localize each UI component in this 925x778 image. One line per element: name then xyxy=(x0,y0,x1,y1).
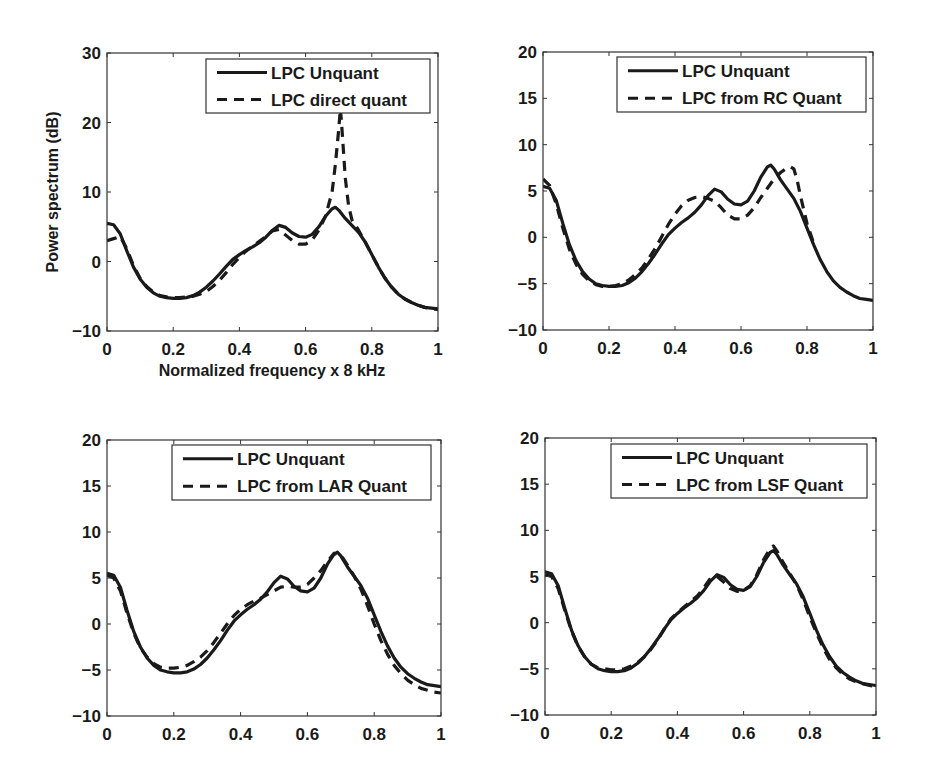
figure-background xyxy=(0,0,925,778)
legend-label: LPC Unquant xyxy=(676,449,784,468)
legend-label: LPC Unquant xyxy=(271,64,379,83)
legend: LPC UnquantLPC from RC Quant xyxy=(617,57,866,112)
x-tick-label: 0 xyxy=(102,340,111,359)
figure: 00.20.40.60.81−100102030LPC UnquantLPC d… xyxy=(0,0,925,778)
legend-label: LPC Unquant xyxy=(237,450,345,469)
y-tick-label: 20 xyxy=(82,114,101,133)
y-tick-label: 0 xyxy=(92,253,101,272)
y-tick-label: 5 xyxy=(530,568,539,587)
x-tick-label: 0.2 xyxy=(597,339,621,358)
x-tick-label: 0.8 xyxy=(795,339,819,358)
x-tick-label: 1 xyxy=(433,340,442,359)
x-tick-label: 0 xyxy=(540,724,549,743)
y-tick-label: −10 xyxy=(72,322,101,341)
x-tick-label: 0.2 xyxy=(161,340,185,359)
y-tick-label: 20 xyxy=(520,429,539,448)
legend-label: LPC from RC Quant xyxy=(682,89,842,108)
x-tick-label: 0.6 xyxy=(729,339,753,358)
y-tick-label: 30 xyxy=(82,44,101,63)
x-tick-label: 0.2 xyxy=(599,724,623,743)
legend-label: LPC direct quant xyxy=(271,91,407,110)
x-tick-label: 0 xyxy=(102,725,111,744)
legend-label: LPC Unquant xyxy=(682,62,790,81)
y-tick-label: −10 xyxy=(508,321,537,340)
x-tick-label: 0.8 xyxy=(362,725,386,744)
y-tick-label: 0 xyxy=(92,615,101,634)
y-axis-label: Power spectrum (dB) xyxy=(44,112,61,273)
x-tick-label: 0.6 xyxy=(732,724,756,743)
y-tick-label: −10 xyxy=(72,707,101,726)
y-tick-label: 20 xyxy=(82,431,101,450)
x-tick-label: 1 xyxy=(436,725,445,744)
legend: LPC UnquantLPC from LSF Quant xyxy=(611,444,867,498)
x-tick-label: 0.2 xyxy=(162,725,186,744)
y-tick-label: 15 xyxy=(518,89,537,108)
x-tick-label: 1 xyxy=(868,339,877,358)
x-tick-label: 0 xyxy=(538,339,547,358)
y-tick-label: 10 xyxy=(82,183,101,202)
x-tick-label: 0.4 xyxy=(229,725,253,744)
y-tick-label: 10 xyxy=(82,523,101,542)
y-tick-label: 0 xyxy=(528,228,537,247)
y-tick-label: 15 xyxy=(520,475,539,494)
x-tick-label: 0.6 xyxy=(296,725,320,744)
x-tick-label: 1 xyxy=(871,724,880,743)
y-tick-label: 20 xyxy=(518,43,537,62)
y-tick-label: 5 xyxy=(528,182,537,201)
legend-label: LPC from LAR Quant xyxy=(237,477,407,496)
y-tick-label: 10 xyxy=(518,136,537,155)
y-tick-label: 15 xyxy=(82,477,101,496)
legend: LPC UnquantLPC direct quant xyxy=(206,59,430,113)
x-tick-label: 0.8 xyxy=(798,724,822,743)
y-tick-label: 0 xyxy=(530,614,539,633)
x-tick-label: 0.4 xyxy=(663,339,687,358)
y-tick-label: −5 xyxy=(82,661,101,680)
x-axis-label: Normalized frequency x 8 kHz xyxy=(159,362,386,379)
y-tick-label: 5 xyxy=(92,569,101,588)
x-tick-label: 0.6 xyxy=(294,340,318,359)
legend: LPC UnquantLPC from LAR Quant xyxy=(172,445,431,500)
x-tick-label: 0.8 xyxy=(360,340,384,359)
y-tick-label: 10 xyxy=(520,521,539,540)
legend-label: LPC from LSF Quant xyxy=(676,476,844,495)
y-tick-label: −10 xyxy=(510,706,539,725)
x-tick-label: 0.4 xyxy=(228,340,252,359)
y-tick-label: −5 xyxy=(520,660,539,679)
y-tick-label: −5 xyxy=(518,275,537,294)
x-tick-label: 0.4 xyxy=(666,724,690,743)
